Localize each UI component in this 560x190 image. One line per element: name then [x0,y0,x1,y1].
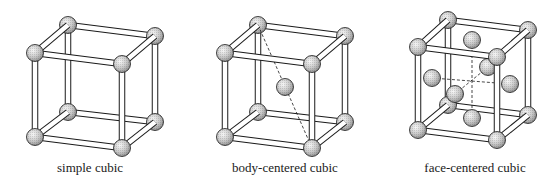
face-center-atom-0 [464,32,481,49]
rod-back-top [68,25,155,36]
rod-front-bottom [418,130,497,140]
corner-atom-fbr [304,140,321,157]
simple-cubic-caption: simple cubic [57,160,123,176]
rod-front-bottom [35,137,122,148]
rod-front-bottom [225,137,312,148]
rod-back-bottom [448,105,528,115]
rod-back-bottom [68,112,155,122]
corner-atom-ftr [304,56,321,73]
rod-front-top [225,53,312,64]
corner-atom-fbl [410,122,427,139]
corner-atom-ftl [410,39,427,56]
rod-back-top [258,25,345,36]
body-centered-cubic-lattice [217,17,354,157]
corner-atom-fbr [114,140,131,157]
face-center-atom-1 [424,70,441,87]
corner-atom-ftr [489,49,506,66]
corner-atom-ftl [27,45,44,62]
rod-front-top [35,53,122,64]
corner-atom-ftr [114,56,131,73]
corner-atom-ftl [217,45,234,62]
corner-atom-fbl [217,129,234,146]
corner-atom-fbr [489,132,506,149]
face-center-atom-2 [502,76,519,93]
face-centered-cubic-lattice [410,12,537,149]
rod-front-top [418,47,497,57]
rod-back-top [448,20,528,30]
rod-back-bottom [258,112,345,122]
simple-cubic-lattice [27,17,164,157]
corner-atom-fbl [27,129,44,146]
face-center-atom-4 [447,86,464,103]
face-center-atom-5 [464,110,481,127]
body-centered-cubic-caption: body-centered cubic [232,160,338,176]
body-center-atom [277,79,294,96]
face-centered-cubic-caption: face-centered cubic [424,160,525,176]
